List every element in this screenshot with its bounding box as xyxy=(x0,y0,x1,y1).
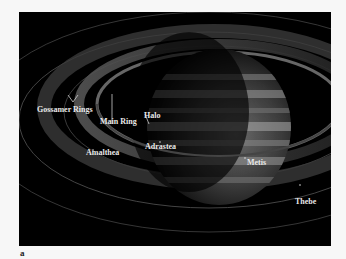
label-adrastea: Adrastea xyxy=(145,142,176,151)
label-metis: Metis xyxy=(247,158,266,167)
panel-label: a xyxy=(20,248,25,258)
label-thebe: Thebe xyxy=(295,197,316,206)
ring-diagram-graphic xyxy=(19,12,331,246)
label-halo: Halo xyxy=(144,111,160,120)
label-amalthea: Amalthea xyxy=(86,148,119,157)
label-main-ring: Main Ring xyxy=(100,117,137,126)
jupiter-ring-system-image: Gossamer Rings Main Ring Halo Amalthea A… xyxy=(19,12,331,246)
label-gossamer-rings: Gossamer Rings xyxy=(37,105,93,114)
